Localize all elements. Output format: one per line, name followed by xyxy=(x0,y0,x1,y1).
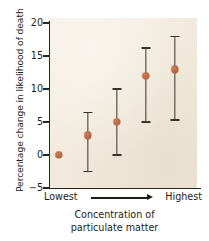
error-bar xyxy=(174,36,175,120)
error-bar-cap xyxy=(113,88,122,89)
caption-line-1: Concentration of xyxy=(32,209,197,222)
y-axis-title: Percentage change in likelihood of death xyxy=(14,12,28,192)
y-axis-tick xyxy=(43,22,49,23)
chart-figure: Percentage change in likelihood of death… xyxy=(0,0,209,241)
error-bar-cap xyxy=(84,171,93,172)
increasing-arrow-icon xyxy=(91,197,148,199)
y-axis-tick xyxy=(43,55,49,56)
y-axis-tick-label: 20 xyxy=(19,18,43,28)
y-axis-tick-label-wrap: −5 xyxy=(14,183,43,193)
error-bar-cap xyxy=(113,154,122,155)
y-axis-tick-label-wrap: 5 xyxy=(14,117,43,127)
error-bar xyxy=(87,113,88,172)
error-bar-cap xyxy=(171,119,180,120)
x-axis-caption: Concentration of particulate matter xyxy=(32,209,197,234)
y-axis-tick-label-wrap: 15 xyxy=(14,51,43,61)
x-axis-annotation: Lowest Highest xyxy=(44,190,204,205)
y-axis-line xyxy=(49,21,50,189)
x-axis-right-label: Highest xyxy=(165,191,202,202)
x-axis-left-label: Lowest xyxy=(44,191,78,202)
caption-line-2: particulate matter xyxy=(32,222,197,235)
y-axis-tick-label: 0 xyxy=(19,150,43,160)
y-axis-tick-label: 5 xyxy=(19,117,43,127)
error-bar-cap xyxy=(142,47,151,48)
y-axis-tick-label: 15 xyxy=(19,51,43,61)
y-axis-tick-label: −5 xyxy=(19,183,43,193)
y-axis-tick xyxy=(43,154,49,155)
increasing-arrow-head-icon xyxy=(147,194,153,200)
y-axis-tick-label: 10 xyxy=(19,84,43,94)
error-bar-cap xyxy=(142,121,151,122)
y-axis-tick-label-wrap: 0 xyxy=(14,150,43,160)
y-axis-tick xyxy=(43,88,49,89)
error-bar-cap xyxy=(84,112,93,113)
y-axis-tick-label-wrap: 10 xyxy=(14,84,43,94)
y-axis-tick xyxy=(43,187,49,188)
y-axis-tick-label-wrap: 20 xyxy=(14,18,43,28)
error-bar-cap xyxy=(171,36,180,37)
y-axis-tick xyxy=(43,121,49,122)
error-bar xyxy=(145,48,146,122)
